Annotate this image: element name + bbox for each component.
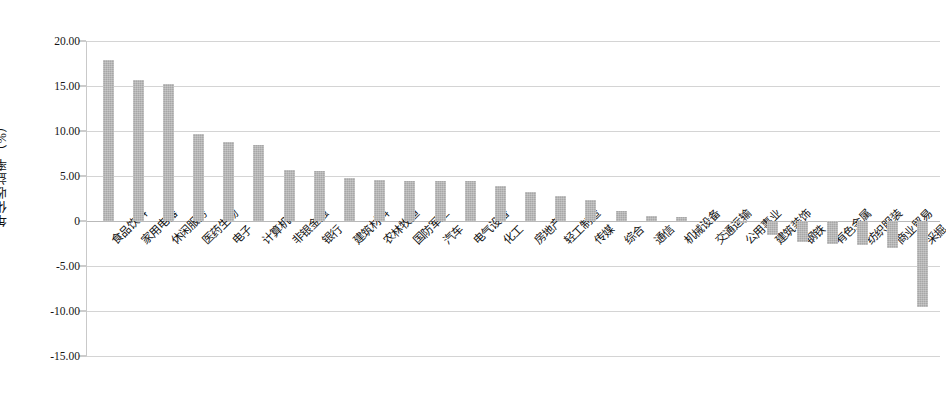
bar	[284, 170, 295, 221]
bar	[435, 181, 446, 222]
bar	[585, 200, 596, 221]
y-tick-label: 5.00	[8, 170, 80, 182]
y-tick-mark	[79, 41, 86, 42]
bar	[646, 216, 657, 221]
bar	[223, 142, 234, 221]
bar	[616, 211, 627, 221]
y-tick-mark	[79, 86, 86, 87]
bar	[917, 221, 928, 307]
y-tick-mark	[79, 356, 86, 357]
bar	[767, 221, 778, 235]
bar	[374, 180, 385, 221]
y-tick-mark	[79, 221, 86, 222]
bar	[103, 60, 114, 221]
bar	[676, 217, 687, 222]
y-tick-mark	[79, 176, 86, 177]
y-tick-label: 20.00	[8, 35, 80, 47]
plot-area	[86, 41, 940, 356]
y-tick-label: -10.00	[8, 305, 80, 317]
y-tick-label: 15.00	[8, 80, 80, 92]
y-tick-mark	[79, 131, 86, 132]
bar	[495, 186, 506, 221]
bar	[706, 221, 717, 222]
gridline	[87, 356, 940, 357]
y-tick-label: -5.00	[8, 260, 80, 272]
bar	[736, 221, 747, 223]
bar	[193, 134, 204, 221]
chart-container: 年化收益率（%） 20.0015.0010.005.000-5.00-10.00…	[0, 0, 946, 394]
y-tick-label: 0	[8, 215, 80, 227]
bar	[314, 171, 325, 221]
bar	[344, 178, 355, 221]
bar	[857, 221, 868, 245]
y-tick-label: -15.00	[8, 350, 80, 362]
y-tick-label: 10.00	[8, 125, 80, 137]
bar	[797, 221, 808, 242]
y-tick-mark	[79, 311, 86, 312]
bar	[887, 221, 898, 248]
bar	[465, 181, 476, 221]
bar	[163, 84, 174, 221]
y-tick-mark	[79, 266, 86, 267]
bar	[133, 80, 144, 221]
bar	[827, 221, 838, 244]
bar	[253, 145, 264, 221]
bar	[404, 181, 415, 222]
bar	[555, 196, 566, 221]
bar	[525, 192, 536, 221]
